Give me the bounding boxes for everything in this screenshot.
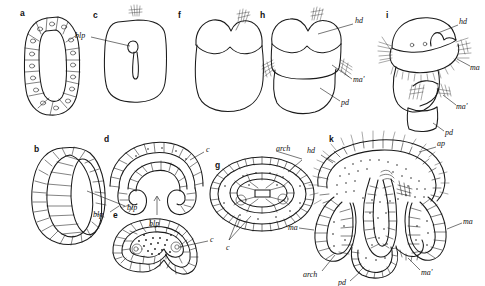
label-ma-k-left: ma	[288, 223, 298, 232]
label-c-g: c	[226, 243, 230, 252]
label-pd-i: pd	[444, 128, 454, 137]
label-pd-h: pd	[340, 98, 350, 107]
panel-c-letter: c	[93, 10, 98, 20]
panel-h: h hd ma' pd	[260, 7, 365, 114]
label-ma-prime-i: ma'	[456, 102, 468, 111]
label-hd-i: hd	[459, 17, 468, 26]
panel-i-letter: i	[386, 10, 388, 20]
panel-g-letter: g	[215, 160, 220, 170]
panel-h-letter: h	[260, 10, 265, 20]
panel-k: k	[288, 131, 473, 286]
figure-plate: a	[0, 0, 485, 286]
label-ma-k-right: ma	[463, 217, 473, 226]
panel-d-letter: d	[104, 134, 109, 144]
panel-i: i	[378, 10, 480, 137]
panel-e-letter: e	[113, 210, 118, 220]
panel-a-cells	[24, 17, 80, 115]
panel-c: c blp	[75, 5, 167, 102]
label-pd-k: pd	[337, 278, 347, 286]
figure-svg: a	[0, 0, 485, 286]
panel-g: g	[210, 144, 314, 252]
panel-k-letter: k	[329, 134, 334, 144]
label-hd-h: hd	[355, 16, 364, 25]
label-c-e: c	[210, 235, 214, 244]
label-hd-k: hd	[307, 146, 316, 155]
panel-e: e	[113, 210, 214, 274]
panel-f: f	[178, 9, 263, 111]
label-c-d: c	[206, 145, 210, 154]
label-arch-k: arch	[303, 270, 317, 279]
label-ma-prime-h: ma'	[353, 75, 365, 84]
panel-d: d	[93, 134, 210, 228]
label-blp-c: blp	[75, 31, 85, 40]
panel-a: a	[20, 8, 80, 115]
label-blp-d-left: blp	[93, 210, 103, 219]
label-ap-k: ap	[437, 139, 445, 148]
panel-a-letter: a	[20, 8, 25, 18]
label-ma-prime-k: ma'	[421, 268, 433, 277]
label-ma-i: ma	[470, 63, 480, 72]
panel-f-letter: f	[178, 10, 181, 20]
panel-b-letter: b	[34, 144, 39, 154]
